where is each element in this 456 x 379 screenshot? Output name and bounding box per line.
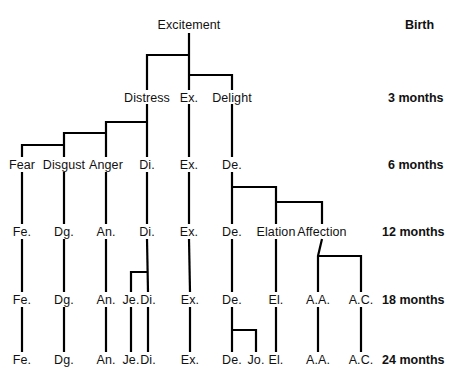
tree-node-di-m18: Di.	[140, 294, 156, 307]
tree-node-aa-m18: A.A.	[306, 294, 330, 307]
tree-node-affection-m12: Affection	[297, 226, 346, 239]
tree-node-de-m18: De.	[222, 294, 242, 307]
tree-edge	[147, 55, 189, 90]
tree-node-ex-m18: Ex.	[181, 294, 199, 307]
tree-node-dg-m12: Dg.	[54, 226, 74, 239]
tree-node-excitement-birth: Excitement	[158, 19, 221, 32]
tree-node-ac-m18: A.C.	[349, 294, 374, 307]
tree-node-fe-m18: Fe.	[13, 294, 31, 307]
tree-node-aa-m24: A.A.	[306, 354, 330, 367]
emotion-differentiation-diagram: ExcitementDistressEx.DelightFearDisgustA…	[0, 0, 456, 379]
age-row-label-m24: 24 months	[382, 354, 445, 367]
tree-node-elation-m12: Elation	[257, 226, 296, 239]
tree-node-an-m24: An.	[96, 354, 115, 367]
tree-node-jo-m24: Jo.	[248, 354, 265, 367]
tree-node-ex-m12: Ex.	[180, 226, 198, 239]
tree-edge	[232, 187, 276, 224]
tree-node-dg-m24: Dg.	[54, 354, 74, 367]
tree-node-je-m18: Je.	[123, 294, 140, 307]
tree-edge	[318, 239, 322, 292]
tree-node-de-m24: De.	[222, 354, 242, 367]
age-row-label-m6: 6 months	[388, 159, 444, 172]
tree-node-ex-m6: Ex.	[180, 159, 198, 172]
tree-node-di-m24: Di.	[140, 354, 156, 367]
tree-edge	[64, 133, 106, 157]
tree-node-de-m12: De.	[222, 226, 242, 239]
tree-edge	[147, 239, 148, 292]
tree-node-el-m18: El.	[269, 294, 284, 307]
tree-node-delight-m3: Delight	[212, 92, 252, 105]
tree-edge	[131, 272, 148, 292]
age-row-label-m18: 18 months	[382, 294, 445, 307]
tree-edge	[232, 330, 256, 352]
age-row-label-m3: 3 months	[388, 92, 444, 105]
age-row-label-birth: Birth	[405, 19, 434, 32]
tree-node-je-m24: Je.	[123, 354, 140, 367]
tree-node-fe-m24: Fe.	[13, 354, 31, 367]
tree-node-distress-m3: Distress	[124, 92, 170, 105]
tree-edge	[276, 202, 322, 224]
tree-node-di-m12: Di.	[139, 226, 155, 239]
tree-node-ac-m24: A.C.	[349, 354, 374, 367]
tree-node-ex-m24: Ex.	[181, 354, 199, 367]
tree-edge	[106, 122, 147, 157]
tree-edge	[189, 239, 190, 292]
tree-edge	[318, 256, 361, 292]
tree-node-dg-m18: Dg.	[54, 294, 74, 307]
tree-node-el-m24: El.	[269, 354, 284, 367]
tree-node-an-m18: An.	[96, 294, 115, 307]
tree-node-de-m6: De.	[222, 159, 242, 172]
tree-node-di-m6: Di.	[139, 159, 155, 172]
tree-node-an-m12: An.	[96, 226, 115, 239]
tree-node-ex-m3: Ex.	[180, 92, 198, 105]
tree-connector-lines	[0, 0, 456, 379]
age-row-label-m12: 12 months	[382, 226, 445, 239]
tree-node-fear-m6: Fear	[9, 159, 35, 172]
tree-edge	[22, 145, 64, 157]
tree-node-fe-m12: Fe.	[13, 226, 31, 239]
tree-node-disgust-m6: Disgust	[43, 159, 85, 172]
tree-edge	[189, 75, 232, 90]
tree-node-anger-m6: Anger	[89, 159, 123, 172]
